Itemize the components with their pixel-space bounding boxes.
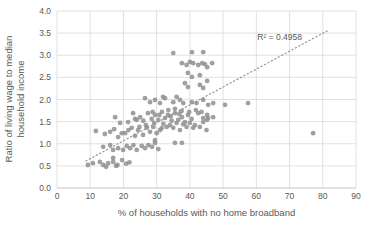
trendline bbox=[86, 31, 327, 161]
x-tick-label: 60 bbox=[252, 191, 262, 201]
data-point bbox=[116, 135, 121, 140]
y-tick-label: 0.5 bbox=[39, 161, 51, 171]
data-point bbox=[156, 147, 161, 152]
data-point bbox=[201, 50, 206, 55]
data-point bbox=[189, 117, 194, 122]
data-point bbox=[102, 132, 107, 137]
data-point bbox=[187, 109, 192, 114]
data-point bbox=[173, 106, 178, 111]
y-axis-tick-labels: 0.00.51.01.52.02.53.03.54.0 bbox=[39, 6, 51, 193]
data-point bbox=[173, 140, 178, 145]
data-points bbox=[85, 50, 315, 169]
data-point bbox=[168, 114, 173, 119]
data-point bbox=[121, 148, 126, 153]
data-point bbox=[133, 133, 138, 138]
data-point bbox=[134, 148, 139, 153]
data-point bbox=[171, 51, 176, 56]
data-point bbox=[193, 108, 198, 113]
data-point bbox=[163, 96, 168, 101]
data-point bbox=[108, 129, 113, 134]
data-point bbox=[185, 85, 190, 90]
data-point bbox=[115, 163, 120, 168]
y-axis-title-line1: Ratio of living wage to median bbox=[3, 36, 14, 163]
x-tick-label: 10 bbox=[85, 191, 95, 201]
y-tick-label: 2.5 bbox=[39, 72, 51, 82]
data-point bbox=[126, 120, 131, 125]
data-point bbox=[143, 96, 148, 101]
y-tick-label: 4.0 bbox=[39, 6, 51, 16]
data-point bbox=[194, 101, 199, 106]
data-point bbox=[211, 115, 216, 120]
data-point bbox=[197, 125, 202, 130]
data-point bbox=[148, 129, 153, 134]
data-point bbox=[113, 115, 118, 120]
data-point bbox=[201, 98, 206, 103]
data-point bbox=[137, 125, 142, 130]
data-point bbox=[180, 61, 185, 66]
x-tick-label: 0 bbox=[55, 191, 60, 201]
x-axis-tick-labels: 0102030405060708090 bbox=[55, 191, 361, 201]
chart-container: 0.00.51.01.52.02.53.03.54.0 010203040506… bbox=[0, 0, 371, 229]
r-squared-label: R² = 0.4958 bbox=[257, 32, 302, 42]
data-point bbox=[171, 125, 176, 130]
data-point bbox=[156, 117, 161, 122]
data-point bbox=[201, 86, 206, 91]
data-point bbox=[108, 143, 113, 148]
data-point bbox=[171, 100, 176, 105]
data-point bbox=[129, 125, 134, 130]
data-point bbox=[204, 128, 209, 133]
data-point bbox=[146, 111, 151, 116]
y-tick-label: 2.0 bbox=[39, 95, 51, 105]
data-point bbox=[189, 75, 194, 80]
data-point bbox=[169, 118, 174, 123]
data-point bbox=[131, 143, 136, 148]
data-point bbox=[205, 65, 210, 70]
x-tick-label: 20 bbox=[119, 191, 129, 201]
data-point bbox=[116, 146, 121, 151]
data-point bbox=[192, 123, 197, 128]
data-point bbox=[180, 115, 185, 120]
x-tick-label: 80 bbox=[318, 191, 328, 201]
data-point bbox=[206, 102, 211, 107]
data-point bbox=[101, 144, 106, 149]
data-point bbox=[173, 111, 178, 116]
y-axis-title-line2: household income bbox=[15, 60, 26, 137]
data-point bbox=[153, 98, 158, 103]
data-point bbox=[205, 117, 210, 122]
data-point bbox=[85, 163, 90, 168]
data-point bbox=[153, 138, 158, 143]
data-point bbox=[93, 129, 98, 134]
data-point bbox=[211, 101, 216, 106]
data-point bbox=[311, 131, 316, 136]
data-point bbox=[191, 61, 196, 66]
data-point bbox=[111, 156, 116, 161]
data-point bbox=[189, 50, 194, 55]
data-point bbox=[144, 123, 149, 128]
data-point bbox=[183, 120, 188, 125]
data-point bbox=[180, 140, 185, 145]
x-tick-label: 70 bbox=[285, 191, 295, 201]
x-tick-label: 40 bbox=[185, 191, 195, 201]
x-tick-label: 30 bbox=[152, 191, 162, 201]
data-point bbox=[120, 158, 125, 163]
y-tick-label: 1.5 bbox=[39, 117, 51, 127]
data-point bbox=[160, 109, 165, 114]
data-point bbox=[185, 71, 190, 76]
data-point bbox=[179, 109, 184, 114]
data-point bbox=[166, 108, 171, 113]
data-point bbox=[112, 127, 117, 132]
data-point bbox=[178, 128, 183, 133]
data-point bbox=[111, 148, 116, 153]
x-tick-label: 90 bbox=[351, 191, 361, 201]
data-point bbox=[152, 121, 157, 126]
data-point bbox=[148, 100, 153, 105]
data-point bbox=[246, 101, 251, 106]
data-point bbox=[150, 144, 155, 149]
y-tick-label: 1.0 bbox=[39, 139, 51, 149]
data-point bbox=[133, 117, 138, 122]
data-point bbox=[127, 160, 132, 165]
data-point bbox=[118, 121, 123, 126]
y-tick-label: 0.0 bbox=[39, 183, 51, 193]
scatter-chart: 0.00.51.01.52.02.53.03.54.0 010203040506… bbox=[0, 0, 371, 229]
data-point bbox=[141, 118, 146, 123]
